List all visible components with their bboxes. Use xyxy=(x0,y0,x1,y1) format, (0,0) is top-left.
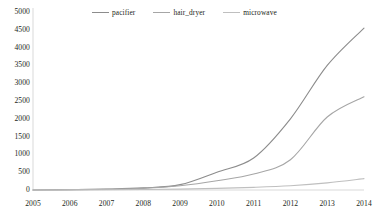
line-chart: pacifier hair_dryer microwave 0500100015… xyxy=(0,0,374,216)
x-tick-label: 2014 xyxy=(344,199,374,208)
x-tick-label: 2006 xyxy=(50,199,90,208)
plot-area: 0500100015002000250030003500400045005000… xyxy=(0,0,374,216)
x-tick-label: 2012 xyxy=(270,199,310,208)
x-tick-label: 2005 xyxy=(13,199,53,208)
x-tick-label: 2008 xyxy=(123,199,163,208)
x-tick-label: 2013 xyxy=(307,199,347,208)
x-tick-label: 2007 xyxy=(87,199,127,208)
x-tick-label: 2009 xyxy=(160,199,200,208)
x-axis: 2005200620072008200920102011201220132014 xyxy=(0,0,374,216)
x-tick-label: 2011 xyxy=(234,199,274,208)
x-tick-label: 2010 xyxy=(197,199,237,208)
